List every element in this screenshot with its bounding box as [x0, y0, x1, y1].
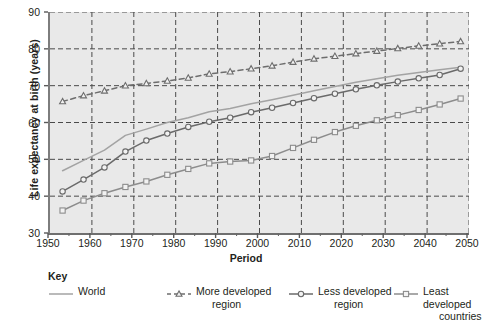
- series-0: [63, 67, 461, 171]
- x-tick-1980: 1980: [151, 237, 197, 249]
- legend-swatch-line-square-icon: [393, 286, 419, 298]
- legend-item-0[interactable]: World: [48, 285, 105, 298]
- y-tick-40: 40: [6, 190, 40, 202]
- legend-item-2[interactable]: Less developedregion: [288, 285, 392, 310]
- series-1: [60, 38, 464, 103]
- x-tick-1960: 1960: [67, 237, 113, 249]
- x-axis-title: Period: [0, 252, 492, 264]
- legend-swatch-dashed-triangle-icon: [166, 286, 192, 298]
- plot-svg: [50, 12, 469, 233]
- legend-swatch-line-plain-icon: [48, 286, 74, 298]
- legend-label-2: Less developedregion: [318, 285, 392, 310]
- legend-title: Key: [48, 270, 478, 282]
- gridlines: [50, 12, 469, 233]
- y-tick-50: 50: [6, 153, 40, 165]
- chart-legend: Key WorldMore developedregionLess develo…: [48, 270, 478, 315]
- y-tick-60: 60: [6, 117, 40, 129]
- x-tick-2020: 2020: [318, 237, 364, 249]
- legend-swatch-line-circle-icon: [288, 286, 314, 298]
- x-tick-1950: 1950: [25, 237, 71, 249]
- plot-area: [48, 12, 469, 235]
- legend-label-1: More developedregion: [196, 285, 271, 310]
- legend-label-0: World: [78, 285, 105, 298]
- y-tick-80: 80: [6, 43, 40, 55]
- legend-item-1[interactable]: More developedregion: [166, 285, 271, 310]
- legend-items: WorldMore developedregionLess developedr…: [48, 285, 478, 315]
- x-tick-2040: 2040: [402, 237, 448, 249]
- x-tick-2030: 2030: [360, 237, 406, 249]
- y-tick-90: 90: [6, 6, 40, 18]
- x-tick-2010: 2010: [276, 237, 322, 249]
- x-tick-2050: 2050: [444, 237, 490, 249]
- x-tick-1990: 1990: [193, 237, 239, 249]
- y-tick-70: 70: [6, 80, 40, 92]
- x-tick-2000: 2000: [235, 237, 281, 249]
- legend-item-3[interactable]: Least developedcountries: [393, 285, 482, 323]
- x-tick-1970: 1970: [109, 237, 155, 249]
- legend-label-3: Least developedcountries: [423, 285, 482, 323]
